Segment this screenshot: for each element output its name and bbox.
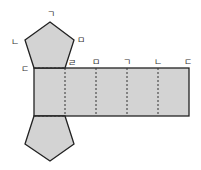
label-rect-top-2: ㅁ bbox=[92, 57, 100, 67]
label-rect-top-4: ㄴ bbox=[154, 57, 162, 67]
bottom-pentagon-base bbox=[25, 116, 74, 161]
prism-net-diagram: ㄱ ㄴ ㅁ ㄷ ㄹ ㅁ ㄱ ㄴ ㄷ bbox=[0, 0, 201, 170]
label-top-apex: ㄱ bbox=[47, 9, 55, 19]
lateral-faces-rectangle bbox=[34, 68, 189, 116]
label-rect-top-left: ㄷ bbox=[21, 64, 29, 74]
label-rect-top-3: ㄱ bbox=[123, 57, 131, 67]
label-top-right: ㅁ bbox=[77, 35, 85, 45]
label-rect-top-right: ㄷ bbox=[184, 57, 192, 67]
label-rect-top-1: ㄹ bbox=[68, 58, 76, 68]
label-top-left: ㄴ bbox=[11, 37, 19, 47]
top-pentagon-base bbox=[25, 22, 74, 68]
